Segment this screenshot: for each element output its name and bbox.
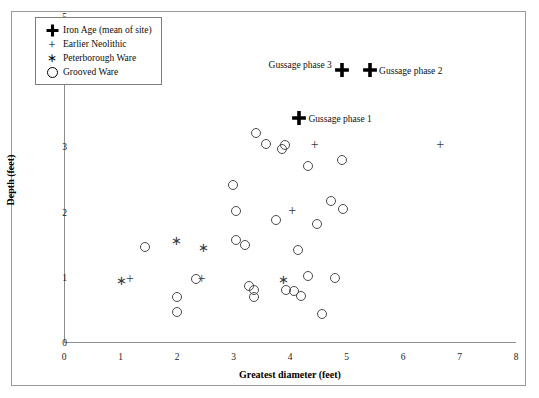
legend-item-0: Iron Age (mean of site) bbox=[41, 23, 152, 37]
data-point-peterborough-ware: ∗ bbox=[116, 273, 127, 286]
data-point-grooved-ware bbox=[261, 139, 271, 149]
y-axis-title: Depth (feet) bbox=[5, 155, 16, 206]
legend-asterisk-icon: ∗ bbox=[41, 52, 63, 64]
y-tick-label: 0 bbox=[62, 338, 67, 348]
x-tick-label: 2 bbox=[175, 352, 180, 362]
data-point-grooved-ware bbox=[338, 204, 348, 214]
data-point-grooved-ware bbox=[271, 215, 281, 225]
data-point-grooved-ware bbox=[231, 206, 241, 216]
y-tick-label: 1 bbox=[62, 273, 67, 283]
data-point-grooved-ware bbox=[296, 291, 306, 301]
x-tick-label: 1 bbox=[118, 352, 123, 362]
point-annotation: Gussage phase 3 bbox=[269, 61, 332, 71]
x-tick-label: 8 bbox=[514, 352, 519, 362]
legend-item-label: Iron Age (mean of site) bbox=[63, 25, 152, 35]
data-point-grooved-ware bbox=[293, 245, 303, 255]
data-point-iron-age bbox=[334, 63, 349, 78]
chart-legend: Iron Age (mean of site)+Earlier Neolithi… bbox=[35, 17, 162, 85]
data-point-grooved-ware bbox=[330, 273, 340, 283]
x-tick-label: 0 bbox=[62, 352, 67, 362]
data-point-iron-age bbox=[363, 63, 378, 78]
point-annotation: Gussage phase 1 bbox=[308, 115, 371, 125]
legend-plus-icon: + bbox=[41, 38, 63, 51]
legend-item-label: Peterborough Ware bbox=[63, 53, 136, 63]
legend-bold-cross-icon bbox=[41, 24, 63, 37]
data-point-peterborough-ware: ∗ bbox=[171, 233, 182, 246]
x-tick-label: 5 bbox=[344, 352, 349, 362]
legend-item-label: Grooved Ware bbox=[63, 67, 118, 77]
data-point-grooved-ware bbox=[337, 155, 347, 165]
y-tick-label: 2 bbox=[62, 208, 67, 218]
legend-item-2: ∗Peterborough Ware bbox=[41, 51, 152, 65]
data-point-grooved-ware bbox=[303, 271, 313, 281]
x-tick-label: 7 bbox=[457, 352, 462, 362]
data-point-grooved-ware bbox=[251, 128, 261, 138]
data-point-earlier-neolithic: + bbox=[311, 138, 319, 152]
data-point-grooved-ware bbox=[312, 219, 322, 229]
legend-circle-icon bbox=[41, 67, 63, 78]
data-point-grooved-ware bbox=[228, 180, 238, 190]
data-point-grooved-ware bbox=[326, 196, 336, 206]
x-axis-title: Greatest diameter (feet) bbox=[64, 369, 516, 380]
data-point-grooved-ware bbox=[191, 274, 201, 284]
y-tick-label: 3 bbox=[62, 142, 67, 152]
data-point-grooved-ware bbox=[140, 242, 150, 252]
legend-item-3: Grooved Ware bbox=[41, 65, 152, 79]
x-tick-label: 6 bbox=[401, 352, 406, 362]
data-point-grooved-ware bbox=[172, 292, 182, 302]
legend-item-label: Earlier Neolithic bbox=[63, 39, 127, 49]
data-point-earlier-neolithic: + bbox=[436, 138, 444, 152]
data-point-grooved-ware bbox=[303, 161, 313, 171]
data-point-grooved-ware bbox=[280, 140, 290, 150]
data-point-iron-age bbox=[292, 111, 307, 126]
x-tick-label: 4 bbox=[288, 352, 293, 362]
data-point-grooved-ware bbox=[317, 309, 327, 319]
figure-panel: Depth (feet) Greatest diameter (feet) Gu… bbox=[11, 11, 526, 386]
data-point-grooved-ware bbox=[249, 292, 259, 302]
legend-item-1: +Earlier Neolithic bbox=[41, 37, 152, 51]
data-point-grooved-ware bbox=[240, 240, 250, 250]
data-point-grooved-ware bbox=[172, 307, 182, 317]
data-point-peterborough-ware: ∗ bbox=[198, 240, 209, 253]
data-point-earlier-neolithic: + bbox=[288, 204, 296, 218]
x-tick-label: 3 bbox=[231, 352, 236, 362]
point-annotation: Gussage phase 2 bbox=[379, 67, 442, 77]
data-point-earlier-neolithic: + bbox=[126, 272, 134, 286]
